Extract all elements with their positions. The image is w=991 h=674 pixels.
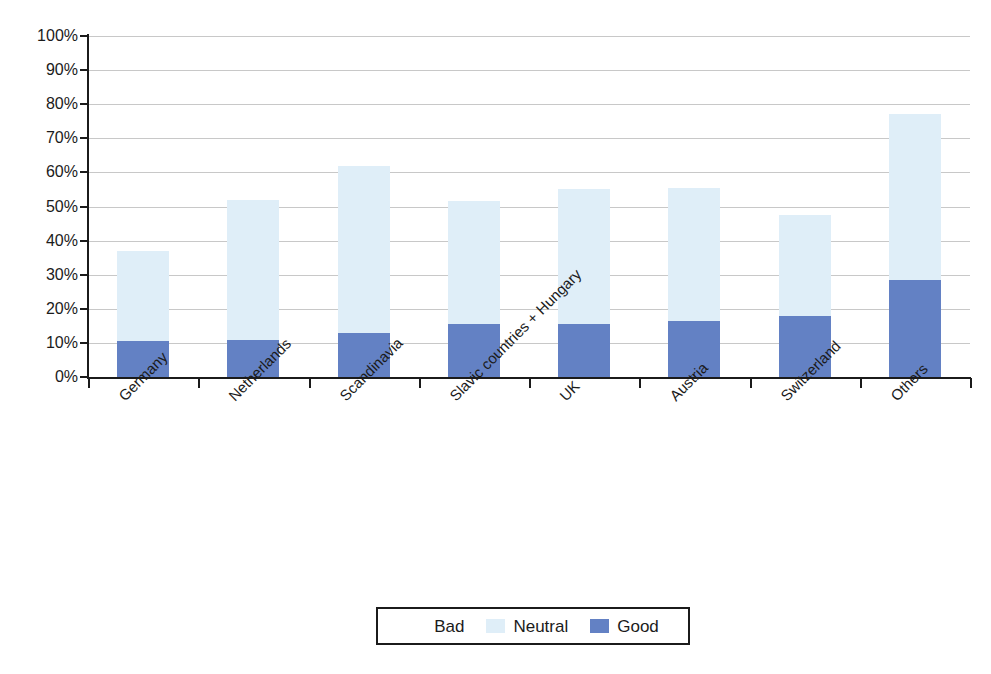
legend-swatch-bad [407,619,426,633]
bar-segment-neutral [338,166,390,333]
y-tick-label: 90% [8,62,78,78]
x-tick-mark [198,378,200,388]
y-tick-label: 70% [8,130,78,146]
legend-label: Good [617,618,659,635]
x-tick-mark [88,378,90,388]
stacked-bar-chart: 100%90%80%70%60%50%40%30%20%10%0% German… [0,0,991,674]
x-tick-mark [750,378,752,388]
bar-group [558,36,610,377]
bar-segment-neutral [779,215,831,316]
y-tick-label: 60% [8,164,78,180]
legend-label: Bad [434,618,464,635]
bar-group [117,36,169,377]
legend-label: Neutral [513,618,568,635]
y-tick-label: 100% [8,28,78,44]
x-tick-mark [970,378,972,388]
legend-swatch-neutral [486,619,505,633]
y-tick-label: 50% [8,199,78,215]
x-tick-mark [860,378,862,388]
bar-group [668,36,720,377]
bar-segment-neutral [448,201,500,324]
bar-group [448,36,500,377]
bar-group [338,36,390,377]
legend-entry[interactable]: Neutral [486,618,568,635]
y-tick-label: 0% [8,369,78,385]
legend-entry[interactable]: Bad [407,618,464,635]
bar-segment-neutral [889,114,941,279]
legend-swatch-good [590,619,609,633]
y-tick-label: 20% [8,301,78,317]
bar-segment-good [558,324,610,377]
bar-group [779,36,831,377]
x-tick-mark [419,378,421,388]
y-tick-label: 30% [8,267,78,283]
y-tick-label: 40% [8,233,78,249]
bar-group [227,36,279,377]
x-tick-mark [529,378,531,388]
y-tick-label: 10% [8,335,78,351]
legend-entry[interactable]: Good [590,618,659,635]
x-tick-mark [309,378,311,388]
bar-group [889,36,941,377]
bar-segment-neutral [117,251,169,341]
bar-segment-neutral [668,188,720,321]
bar-segment-neutral [227,200,279,340]
x-tick-mark [639,378,641,388]
x-axis-label: UK [556,377,583,404]
y-tick-label: 80% [8,96,78,112]
chart-legend: BadNeutralGood [376,607,690,645]
bar-segment-neutral [558,189,610,324]
